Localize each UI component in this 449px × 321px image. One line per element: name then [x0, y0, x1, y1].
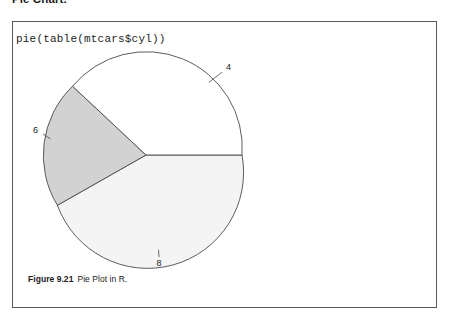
figure-caption-label: Figure 9.21 — [28, 274, 73, 284]
figure-caption-text: Pie Plot in R. — [77, 274, 127, 284]
figure-caption: Figure 9.21Pie Plot in R. — [28, 274, 127, 284]
section-heading: Pie Chart. — [12, 0, 67, 5]
pie-label-6: 6 — [33, 125, 38, 135]
pie-chart-svg: 4 6 8 — [12, 21, 437, 308]
pie-plot: 4 6 8 — [12, 21, 437, 308]
pie-label-8: 8 — [156, 258, 161, 268]
pie-label-4: 4 — [226, 62, 231, 72]
pie-leader-8 — [159, 250, 160, 257]
